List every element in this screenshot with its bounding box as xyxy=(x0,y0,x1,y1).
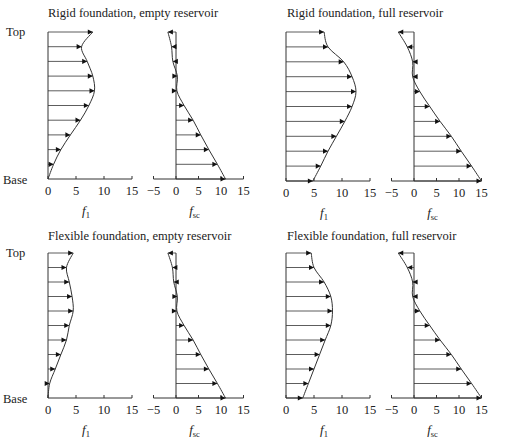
x-tick-label: 10 xyxy=(98,184,111,198)
subplot-fsc: −5051015fsc xyxy=(385,29,488,222)
x-tick-label: 15 xyxy=(237,184,250,198)
x-tick-label: 5 xyxy=(73,184,79,198)
x-tick-label: 5 xyxy=(311,403,317,417)
x-axis-label: f1 xyxy=(320,205,328,222)
panel-rigid-empty: Rigid foundation, empty reservoir TopBas… xyxy=(3,6,250,220)
panel-title: Rigid foundation, empty reservoir xyxy=(48,6,219,20)
panel-title: Flexible foundation, empty reservoir xyxy=(48,229,232,243)
panel-title: Rigid foundation, full reservoir xyxy=(287,6,444,20)
subplot-f1: 051015f1 xyxy=(45,250,139,439)
arrow-right-icon xyxy=(327,308,332,313)
arrow-right-icon xyxy=(339,59,344,64)
arrow-right-icon xyxy=(298,395,303,400)
x-tick-label: 5 xyxy=(433,403,439,417)
base-label: Base xyxy=(3,392,28,406)
x-tick-label: 15 xyxy=(364,186,377,200)
arrow-right-icon xyxy=(308,178,313,183)
x-axis-label: f1 xyxy=(82,203,90,220)
x-axis-label: f1 xyxy=(320,422,328,439)
subplot-f1: 051015f1 xyxy=(283,29,376,222)
arrow-right-icon xyxy=(319,29,324,34)
x-tick-label: 15 xyxy=(237,403,250,417)
arrow-left-icon xyxy=(413,59,418,64)
x-tick-label: 5 xyxy=(433,186,439,200)
x-tick-label: 0 xyxy=(283,403,289,417)
x-tick-label: 5 xyxy=(195,403,201,417)
x-tick-label: 5 xyxy=(73,403,79,417)
x-tick-label: −5 xyxy=(147,184,160,198)
top-label: Top xyxy=(6,246,25,260)
x-tick-label: 15 xyxy=(126,184,139,198)
x-tick-label: 0 xyxy=(45,184,51,198)
arrow-left-icon xyxy=(172,44,177,49)
x-tick-label: 10 xyxy=(453,403,466,417)
arrow-left-icon xyxy=(413,279,418,284)
x-tick-label: 10 xyxy=(98,403,111,417)
x-tick-label: 0 xyxy=(45,403,51,417)
x-tick-label: 15 xyxy=(364,403,377,417)
distribution-curve xyxy=(398,32,481,181)
subplot-fsc: −5051015fsc xyxy=(147,250,250,439)
x-tick-label: 10 xyxy=(336,403,349,417)
mode-shape-figure: Rigid foundation, empty reservoir TopBas… xyxy=(0,0,508,448)
panel-rigid-full: Rigid foundation, full reservoir 051015f… xyxy=(283,6,488,222)
arrow-right-icon xyxy=(61,265,66,270)
subplot-f1: 051015f1 xyxy=(45,29,138,220)
x-axis-label: fsc xyxy=(189,422,200,439)
x-tick-label: 10 xyxy=(215,403,228,417)
x-tick-label: 0 xyxy=(283,186,289,200)
x-tick-label: −5 xyxy=(385,186,398,200)
base-label: Base xyxy=(3,173,28,187)
arrow-right-icon xyxy=(77,44,82,49)
panel-title: Flexible foundation, full reservoir xyxy=(287,229,457,243)
x-tick-label: 10 xyxy=(453,186,466,200)
x-tick-label: 5 xyxy=(311,186,317,200)
x-tick-label: 0 xyxy=(411,403,417,417)
x-tick-label: 10 xyxy=(215,184,228,198)
x-tick-label: 0 xyxy=(173,403,179,417)
x-axis-label: fsc xyxy=(189,203,200,220)
x-axis-label: fsc xyxy=(427,422,438,439)
panel-flexible-empty: Flexible foundation, empty reservoir Top… xyxy=(3,229,250,439)
subplot-fsc: −5051015fsc xyxy=(147,29,250,220)
x-tick-label: 0 xyxy=(173,184,179,198)
x-axis-label: f1 xyxy=(82,422,90,439)
top-label: Top xyxy=(6,25,25,39)
panel-flexible-full: Flexible foundation, full reservoir 0510… xyxy=(283,229,488,439)
x-tick-label: −5 xyxy=(385,403,398,417)
subplot-f1: 051015f1 xyxy=(283,250,376,439)
arrow-right-icon xyxy=(351,89,356,94)
x-tick-label: 10 xyxy=(336,186,349,200)
distribution-curve xyxy=(398,253,481,398)
x-tick-label: 15 xyxy=(475,186,488,200)
x-tick-label: 0 xyxy=(411,186,417,200)
x-tick-label: 5 xyxy=(195,184,201,198)
arrow-right-icon xyxy=(88,29,93,34)
x-tick-label: 15 xyxy=(126,403,139,417)
x-tick-label: −5 xyxy=(147,403,160,417)
subplot-fsc: −5051015fsc xyxy=(385,250,488,439)
x-axis-label: fsc xyxy=(427,205,438,222)
x-tick-label: 15 xyxy=(475,403,488,417)
arrow-right-icon xyxy=(306,250,311,255)
